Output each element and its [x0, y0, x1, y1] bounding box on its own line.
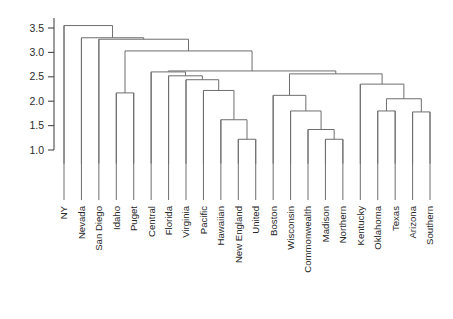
merge-link: [64, 26, 113, 164]
merge-link: [221, 120, 247, 164]
merge-link: [125, 51, 252, 93]
merge-link: [308, 130, 334, 164]
y-axis-tick-label: 1.5: [29, 119, 44, 131]
leaf-label: Pacific: [198, 206, 209, 234]
leaf-label: Nevada: [76, 205, 87, 239]
leaf-label: Idaho: [111, 206, 122, 230]
merge-link: [273, 95, 306, 163]
dendrogram-svg: 1.01.52.02.53.03.5 NYNevadaSan DiegoIdah…: [0, 0, 453, 319]
merge-link: [203, 90, 234, 163]
merge-link: [386, 99, 421, 112]
leaf-label: Commonwealth: [302, 206, 313, 273]
leaf-label: Northern: [337, 206, 348, 243]
merge-link: [99, 39, 189, 163]
merge-link: [238, 139, 255, 163]
leaf-label: Oklahoma: [372, 205, 383, 249]
leaf-label: Arizona: [407, 205, 418, 238]
dendrogram-links: [64, 26, 430, 164]
merge-link: [116, 93, 133, 164]
merge-link: [378, 111, 395, 164]
leaf-label: Boston: [268, 206, 279, 236]
leaf-label: Madison: [320, 206, 331, 242]
leaf-label: Florida: [163, 205, 174, 235]
leaf-label: Kentucky: [355, 206, 366, 246]
y-axis-tick-label: 3.0: [29, 46, 44, 58]
leaf-label: Southern: [424, 206, 435, 245]
merge-link: [186, 80, 219, 164]
leaf-label: NY: [58, 205, 69, 219]
y-axis-tick-label: 1.0: [29, 144, 44, 156]
leaf-stems: [64, 26, 430, 200]
leaf-label: Virginia: [180, 205, 191, 237]
leaf-label: New England: [233, 206, 244, 263]
y-axis: 1.01.52.02.53.03.5: [29, 18, 54, 156]
leaf-label: Wisconsin: [285, 206, 296, 250]
merge-link: [169, 76, 203, 164]
dendrogram-chart: 1.01.52.02.53.03.5 NYNevadaSan DiegoIdah…: [0, 0, 453, 319]
merge-link: [81, 38, 143, 164]
leaf-label: Hawaiian: [215, 206, 226, 245]
merge-link: [413, 112, 430, 164]
leaf-label: Central: [146, 206, 157, 237]
y-axis-tick-label: 2.5: [29, 70, 44, 82]
merge-link: [291, 111, 322, 164]
leaf-label: San Diego: [93, 206, 104, 251]
merge-link: [325, 139, 342, 163]
leaf-label: Texas: [390, 206, 401, 231]
y-axis-tick-label: 3.5: [29, 22, 44, 34]
leaf-label: United: [250, 206, 261, 234]
merge-link: [360, 84, 404, 164]
leaf-labels: NYNevadaSan DiegoIdahoPugetCentralFlorid…: [58, 205, 435, 272]
y-axis-tick-label: 2.0: [29, 95, 44, 107]
leaf-label: Puget: [128, 206, 139, 231]
